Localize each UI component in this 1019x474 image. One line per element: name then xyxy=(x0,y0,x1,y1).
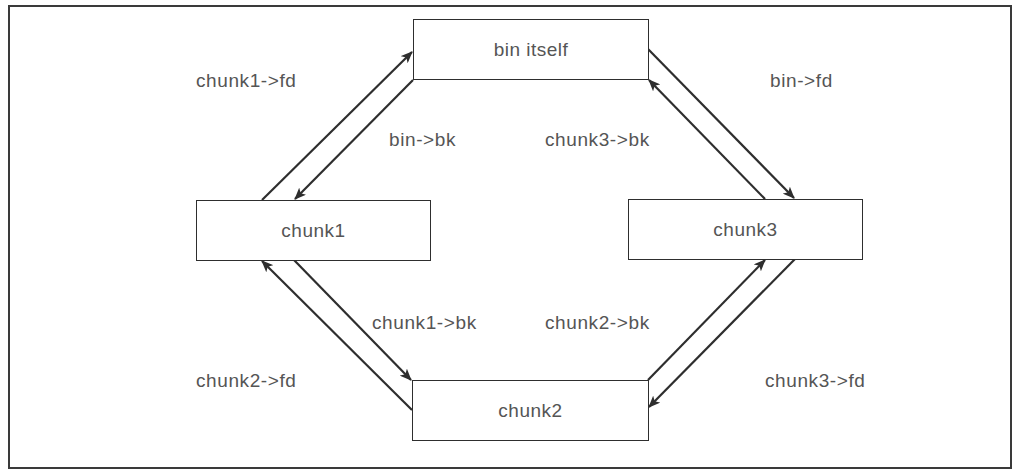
edge-label-bin-fd: bin->fd xyxy=(770,71,833,90)
node-chunk3: chunk3 xyxy=(628,199,863,260)
node-bin-itself-label: bin itself xyxy=(494,39,569,61)
edge-label-chunk3-bk: chunk3->bk xyxy=(545,130,650,149)
node-chunk3-label: chunk3 xyxy=(713,219,777,241)
edge-label-chunk1-fd: chunk1->fd xyxy=(196,71,297,90)
node-chunk2-label: chunk2 xyxy=(498,400,562,422)
edge-label-chunk2-bk: chunk2->bk xyxy=(545,313,650,332)
edge-label-chunk1-bk: chunk1->bk xyxy=(372,313,477,332)
edge-label-chunk2-fd: chunk2->fd xyxy=(196,371,297,390)
node-chunk1: chunk1 xyxy=(196,200,431,261)
node-chunk1-label: chunk1 xyxy=(281,220,345,242)
edge-label-chunk3-fd: chunk3->fd xyxy=(765,371,866,390)
node-bin-itself: bin itself xyxy=(413,19,649,80)
edge-label-bin-bk: bin->bk xyxy=(389,130,456,149)
node-chunk2: chunk2 xyxy=(412,380,649,441)
